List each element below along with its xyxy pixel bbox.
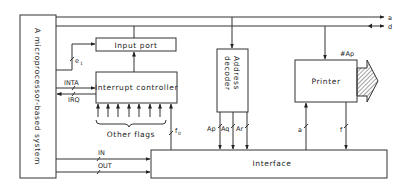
interrupt-controller-block: Interrupt controller — [95, 72, 178, 103]
printer-block: Printer #Ap — [295, 50, 357, 102]
svg-text:e: e — [75, 57, 79, 65]
data-bus: d — [56, 23, 392, 31]
a-signal: a — [298, 103, 308, 150]
aq-signal: Aq — [221, 112, 235, 149]
svg-text:Ar: Ar — [236, 125, 243, 133]
input-port-block: Input port — [96, 38, 176, 51]
in-signal: IN — [56, 149, 150, 161]
svg-text:0: 0 — [178, 131, 181, 136]
svg-text:Aq: Aq — [221, 125, 229, 133]
other-flags-brace — [96, 120, 166, 127]
microprocessor-system-label: A microprocessor-based system — [33, 28, 42, 165]
svg-text:1: 1 — [80, 61, 83, 66]
input-port-label: Input port — [114, 41, 157, 50]
address-decoder-block: Address decoder — [217, 49, 248, 112]
address-bus-label: a — [388, 14, 392, 22]
irq-signal: IRQ — [57, 92, 96, 104]
svg-text:Ap: Ap — [207, 125, 216, 133]
svg-text:f: f — [340, 126, 343, 134]
inta-signal: INTA — [56, 79, 95, 90]
svg-text:a: a — [298, 126, 302, 134]
block-diagram: A microprocessor-based system a d Input … — [0, 0, 414, 192]
printer-output-arrow — [357, 60, 378, 102]
out-signal: OUT — [56, 162, 150, 174]
f0-signal: f 0 — [169, 104, 181, 150]
interface-block: Interface — [151, 150, 387, 178]
address-bus: a — [56, 14, 392, 22]
microprocessor-system-block: A microprocessor-based system — [20, 15, 56, 178]
f-signal: f — [340, 102, 348, 149]
ap-signal: Ap — [207, 112, 222, 149]
interrupt-controller-label: Interrupt controller — [95, 83, 178, 92]
svg-text:OUT: OUT — [98, 162, 112, 170]
svg-text:IRQ: IRQ — [68, 96, 80, 104]
printer-tag: #Ap — [340, 50, 354, 58]
other-flags-label: Other flags — [107, 130, 155, 139]
other-flags-inputs: Other flags — [96, 104, 166, 139]
data-bus-label: d — [388, 23, 392, 31]
svg-text:Address: Address — [232, 56, 241, 90]
svg-text:INTA: INTA — [64, 79, 79, 87]
printer-label: Printer — [311, 77, 340, 86]
svg-text:IN: IN — [98, 149, 105, 157]
svg-text:decoder: decoder — [223, 56, 232, 91]
ar-signal: Ar — [236, 112, 249, 149]
interface-label: Interface — [253, 159, 292, 168]
e1-signal: e 1 — [56, 44, 95, 70]
